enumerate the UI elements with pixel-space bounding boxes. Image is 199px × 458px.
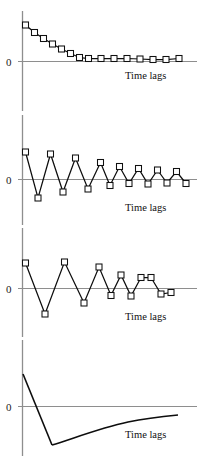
data-marker xyxy=(23,149,29,155)
chart-panel-2-svg: 0 Time lags xyxy=(0,113,199,226)
y-axis-zero-label: 0 xyxy=(6,401,12,413)
series-descent-4 xyxy=(23,374,52,445)
acf-pacf-figure: 0 Time lags 0 xyxy=(0,0,199,458)
data-marker xyxy=(32,30,38,36)
x-axis-label: Time lags xyxy=(125,311,166,322)
chart-panel-3: 0 Time lags xyxy=(0,226,199,338)
y-axis-zero-label: 0 xyxy=(6,283,12,295)
data-marker xyxy=(155,167,161,173)
y-axis-zero-label: 0 xyxy=(6,56,12,68)
data-marker xyxy=(176,56,182,62)
chart-panel-1: 0 Time lags xyxy=(0,8,199,113)
data-marker xyxy=(164,180,170,186)
data-marker xyxy=(163,57,169,63)
data-marker xyxy=(68,51,74,57)
chart-panel-4: 0 Time lags xyxy=(0,338,199,458)
data-marker xyxy=(150,57,156,63)
data-marker xyxy=(73,155,79,161)
data-marker xyxy=(35,195,41,201)
data-marker xyxy=(136,166,142,172)
series-line-2 xyxy=(26,152,187,198)
data-marker xyxy=(41,36,47,42)
data-marker xyxy=(62,259,68,265)
data-marker xyxy=(138,275,144,281)
chart-panel-3-svg: 0 Time lags xyxy=(0,226,199,338)
data-marker xyxy=(158,291,164,297)
data-marker xyxy=(111,56,117,62)
data-marker xyxy=(86,56,92,62)
data-marker xyxy=(42,311,48,317)
data-marker xyxy=(108,293,114,299)
chart-panel-4-svg: 0 Time lags xyxy=(0,338,199,458)
x-axis-label: Time lags xyxy=(125,429,166,440)
data-marker xyxy=(48,151,54,157)
data-marker xyxy=(81,300,87,306)
data-marker xyxy=(148,275,154,281)
x-axis-label: Time lags xyxy=(125,70,166,81)
data-marker xyxy=(183,181,189,187)
data-marker xyxy=(85,186,91,192)
data-marker xyxy=(126,181,132,187)
data-marker xyxy=(168,290,174,296)
data-marker xyxy=(107,183,113,189)
figure-title xyxy=(0,0,199,4)
data-marker xyxy=(98,160,104,166)
y-axis-zero-label: 0 xyxy=(6,174,12,186)
data-marker xyxy=(145,181,151,187)
chart-panel-1-svg: 0 Time lags xyxy=(0,8,199,113)
data-marker xyxy=(96,264,102,270)
data-marker xyxy=(118,272,124,278)
data-marker xyxy=(59,46,65,52)
data-marker xyxy=(77,55,83,61)
data-marker xyxy=(23,260,29,266)
data-marker xyxy=(23,22,29,28)
data-marker xyxy=(50,41,56,47)
data-marker xyxy=(137,56,143,62)
data-marker xyxy=(60,189,66,195)
series-line-1 xyxy=(26,25,180,60)
data-marker xyxy=(124,56,130,62)
data-marker xyxy=(174,169,180,175)
data-marker xyxy=(98,56,104,62)
x-axis-label: Time lags xyxy=(125,202,166,213)
data-marker xyxy=(128,293,134,299)
data-marker xyxy=(117,164,123,170)
chart-panel-2: 0 Time lags xyxy=(0,113,199,226)
